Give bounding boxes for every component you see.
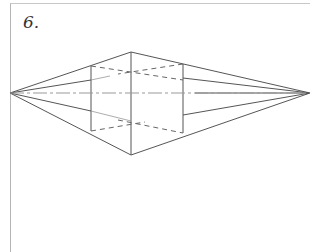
light-lines: [91, 76, 131, 121]
hidden-edges: [91, 64, 183, 133]
solid-lines: [10, 52, 310, 155]
perspective-drawing: [0, 0, 310, 252]
